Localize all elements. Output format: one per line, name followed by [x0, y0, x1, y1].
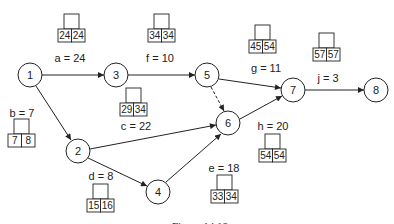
svg-text:33: 33 — [212, 191, 224, 202]
edge-b — [36, 86, 71, 140]
svg-text:24: 24 — [73, 30, 85, 41]
node-1: 1 — [18, 63, 42, 87]
svg-text:2: 2 — [75, 145, 81, 157]
edges — [36, 75, 364, 186]
svg-text:24: 24 — [59, 30, 71, 41]
svg-text:34: 34 — [149, 30, 161, 41]
edge-dummy — [211, 87, 224, 111]
svg-text:16: 16 — [102, 200, 114, 211]
svg-text:45: 45 — [250, 41, 262, 52]
svg-text:8: 8 — [373, 84, 379, 96]
svg-text:5: 5 — [204, 69, 210, 81]
label-j: j = 3 — [316, 72, 338, 84]
figure-caption: Figure 14.18 — [172, 220, 229, 224]
svg-text:34: 34 — [226, 191, 238, 202]
label-b: b = 7 — [10, 107, 35, 119]
svg-text:6: 6 — [225, 117, 231, 129]
timebox-e: 3334 — [211, 175, 238, 203]
label-g: g = 11 — [251, 62, 281, 74]
svg-text:15: 15 — [88, 200, 100, 211]
timebox-h: 5454 — [259, 134, 286, 162]
label-h: h = 20 — [258, 120, 289, 132]
svg-text:7: 7 — [290, 84, 296, 96]
svg-text:34: 34 — [135, 104, 147, 115]
label-c: c = 22 — [121, 120, 151, 132]
timebox-j: 5757 — [313, 33, 340, 61]
svg-text:3: 3 — [113, 69, 119, 81]
node-6: 6 — [216, 111, 240, 135]
svg-text:29: 29 — [121, 104, 133, 115]
node-2: 2 — [66, 139, 90, 163]
svg-text:34: 34 — [163, 30, 175, 41]
svg-text:7: 7 — [12, 135, 18, 146]
svg-text:54: 54 — [274, 150, 286, 161]
svg-text:57: 57 — [328, 49, 340, 60]
timebox-c: 2934 — [120, 88, 147, 116]
network-diagram: 1 2 3 4 5 6 7 8 a = 24 f = 10 b = 7 c = … — [0, 0, 394, 224]
node-5: 5 — [195, 63, 219, 87]
timebox-g: 4554 — [249, 25, 276, 53]
edge-h — [240, 96, 282, 119]
node-7: 7 — [281, 78, 305, 102]
node-3: 3 — [104, 63, 128, 87]
svg-text:8: 8 — [25, 135, 31, 146]
timebox-f: 3434 — [148, 14, 175, 42]
svg-text:1: 1 — [27, 69, 33, 81]
edge-c — [90, 125, 216, 149]
node-8: 8 — [364, 78, 388, 102]
label-e: e = 18 — [209, 162, 240, 174]
edge-g — [219, 79, 281, 88]
edge-e — [166, 134, 221, 182]
label-d: d = 8 — [89, 170, 114, 182]
svg-text:57: 57 — [314, 49, 326, 60]
label-a: a = 24 — [55, 52, 86, 64]
timebox-a: 2424 — [58, 14, 85, 42]
label-f: f = 10 — [146, 52, 174, 64]
svg-text:54: 54 — [260, 150, 272, 161]
node-4: 4 — [146, 180, 170, 204]
svg-text:54: 54 — [264, 41, 276, 52]
timebox-d: 1516 — [87, 184, 114, 212]
timebox-b: 78 — [8, 119, 35, 147]
svg-text:4: 4 — [155, 186, 161, 198]
